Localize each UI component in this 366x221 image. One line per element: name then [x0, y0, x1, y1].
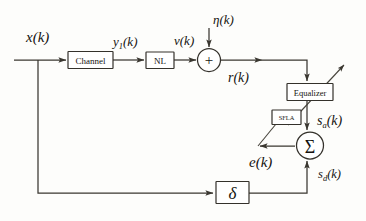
block-nl[interactable]: NL	[146, 52, 174, 69]
nl-label: NL	[154, 56, 166, 66]
svg-text:r(k): r(k)	[228, 70, 249, 86]
block-equalizer[interactable]: Equalizer	[287, 84, 333, 101]
adder-plus-label: +	[205, 52, 213, 68]
block-diagram: Channel NL + Equalizer SFLA Σ δ	[0, 0, 366, 221]
noise-arg: (k)	[219, 12, 233, 27]
label-error-signal: e(k)	[249, 154, 272, 171]
svg-text:x(k): x(k)	[25, 29, 49, 46]
wire-input-tap-to-delta	[38, 60, 213, 193]
channel-label: Channel	[76, 56, 106, 66]
wire-to-equalizer	[262, 60, 307, 81]
channel-out-arg: (k)	[123, 34, 137, 49]
wire-error-to-sfla	[258, 124, 276, 146]
svg-text:η(k): η(k)	[213, 12, 234, 27]
block-delta[interactable]: δ	[216, 182, 249, 204]
block-summer[interactable]: Σ	[297, 132, 324, 159]
desired-arg: (k)	[327, 167, 341, 181]
label-channel-out-signal: y1(k)	[111, 34, 137, 51]
svg-text:e(k): e(k)	[249, 154, 272, 171]
svg-text:sa(k): sa(k)	[317, 113, 343, 130]
block-channel[interactable]: Channel	[68, 52, 113, 69]
label-desired-signal: sd(k)	[318, 167, 341, 183]
sfla-label: SFLA	[279, 114, 295, 121]
svg-text:v(k): v(k)	[174, 33, 194, 48]
input-arg: (k)	[33, 29, 50, 46]
summer-sigma-label: Σ	[305, 137, 315, 157]
nl-out-arg: (k)	[180, 33, 194, 48]
equalized-arg: (k)	[327, 113, 343, 129]
equalizer-label: Equalizer	[294, 88, 327, 98]
svg-text:sd(k): sd(k)	[318, 167, 341, 183]
figure-canvas: Channel NL + Equalizer SFLA Σ δ	[0, 0, 366, 221]
label-input-signal: x(k)	[25, 29, 49, 46]
block-sfla[interactable]: SFLA	[272, 110, 301, 125]
block-adder[interactable]: +	[198, 49, 221, 72]
svg-text:y1(k): y1(k)	[111, 34, 137, 51]
label-noise-signal: η(k)	[213, 12, 234, 27]
label-nl-out-signal: v(k)	[174, 33, 194, 48]
received-arg: (k)	[233, 70, 249, 86]
delta-label: δ	[229, 184, 238, 203]
label-received-signal: r(k)	[228, 70, 249, 86]
label-equalized-signal: sa(k)	[317, 113, 343, 130]
error-arg: (k)	[256, 154, 273, 171]
